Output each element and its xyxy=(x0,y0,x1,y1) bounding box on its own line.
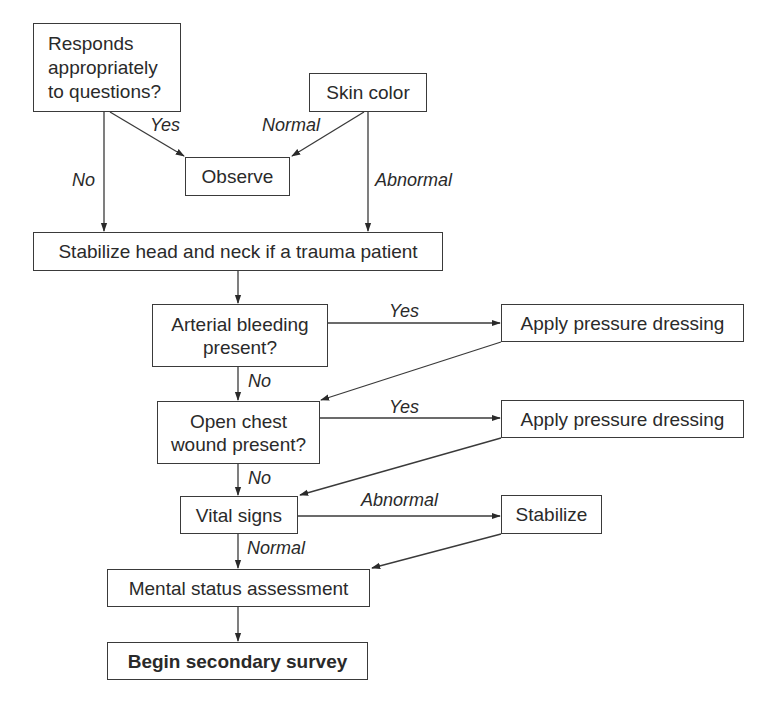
node-vital-signs-label: Vital signs xyxy=(196,504,282,527)
node-open-chest-line-1: Open chest xyxy=(171,410,306,433)
node-mental-status-assessment: Mental status assessment xyxy=(107,569,370,607)
edge-apply2-vital xyxy=(300,438,501,495)
node-stabilize-label: Stabilize xyxy=(516,503,588,526)
edge-label-arterial-yes: Yes xyxy=(389,301,419,322)
node-apply-pressure-1-label: Apply pressure dressing xyxy=(521,312,725,335)
edge-label-skin-normal: Normal xyxy=(262,115,320,136)
node-begin-secondary-survey: Begin secondary survey xyxy=(107,642,368,680)
node-arterial-line-2: present? xyxy=(171,336,308,359)
node-stabilize-head-neck-label: Stabilize head and neck if a trauma pati… xyxy=(58,240,417,263)
edge-label-responds-no: No xyxy=(72,170,95,191)
node-open-chest-line-2: wound present? xyxy=(171,433,306,456)
node-observe-label: Observe xyxy=(202,165,274,188)
edge-label-vital-normal: Normal xyxy=(247,538,305,559)
node-begin-secondary-label: Begin secondary survey xyxy=(128,650,348,673)
edge-label-vital-abnormal: Abnormal xyxy=(361,490,438,511)
node-arterial-line-1: Arterial bleeding xyxy=(171,313,308,336)
node-apply-pressure-2-label: Apply pressure dressing xyxy=(521,408,725,431)
node-apply-pressure-dressing-2: Apply pressure dressing xyxy=(501,400,744,438)
node-mental-status-label: Mental status assessment xyxy=(129,577,349,600)
edge-label-arterial-no: No xyxy=(248,371,271,392)
node-responds-line-1: Responds xyxy=(48,32,161,56)
edge-label-chest-no: No xyxy=(248,468,271,489)
edge-stabilize-mental xyxy=(372,534,501,568)
node-arterial-bleeding: Arterial bleeding present? xyxy=(152,304,328,367)
node-responds-line-2: appropriately xyxy=(48,56,161,80)
edge-label-skin-abnormal: Abnormal xyxy=(375,170,452,191)
node-skin-color-label: Skin color xyxy=(326,81,409,104)
node-responds-appropriately: Responds appropriately to questions? xyxy=(33,23,181,112)
node-vital-signs: Vital signs xyxy=(180,496,298,534)
node-stabilize-head-neck: Stabilize head and neck if a trauma pati… xyxy=(33,232,443,271)
node-observe: Observe xyxy=(185,157,290,196)
node-open-chest-wound: Open chest wound present? xyxy=(157,401,320,464)
node-skin-color: Skin color xyxy=(309,73,427,112)
node-responds-line-3: to questions? xyxy=(48,80,161,104)
node-apply-pressure-dressing-1: Apply pressure dressing xyxy=(501,304,744,342)
edge-apply1-openchest xyxy=(321,342,501,400)
node-stabilize: Stabilize xyxy=(501,495,602,534)
edge-label-responds-yes: Yes xyxy=(150,115,180,136)
edge-label-chest-yes: Yes xyxy=(389,397,419,418)
